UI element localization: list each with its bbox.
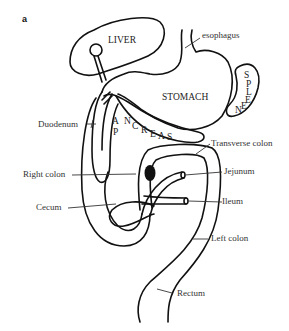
liver-outline: [70, 18, 164, 75]
transverse-colon-label: Transverse colon: [211, 138, 273, 148]
jejunum-label: Jejunum: [224, 166, 255, 176]
esophagus-label: esophagus: [202, 30, 240, 40]
svg-text:P: P: [113, 127, 118, 137]
stomach-label: STOMACH: [162, 92, 208, 102]
svg-text:C: C: [132, 121, 138, 131]
svg-text:S: S: [167, 132, 172, 142]
panel-letter: a: [22, 14, 28, 24]
jejunum-end: [181, 172, 185, 178]
ileum-label: Ileum: [222, 196, 243, 206]
rectum-label: Rectum: [177, 288, 205, 298]
svg-text:N: N: [124, 116, 131, 126]
ileum-leader: [188, 201, 222, 202]
cecum-label: Cecum: [36, 202, 62, 212]
liver-label: LIVER: [108, 35, 137, 45]
spleen-label: S P L E E N: [235, 70, 252, 115]
rectum-leader: [157, 289, 172, 293]
svg-text:E: E: [150, 129, 156, 139]
svg-text:E: E: [241, 101, 247, 111]
right-colon-label: Right colon: [23, 169, 66, 179]
svg-text:A: A: [158, 131, 165, 141]
dark-mass: [145, 165, 156, 181]
bile-duct-left: [94, 56, 102, 82]
cecum-outline: [110, 202, 154, 226]
gallbladder: [90, 44, 102, 56]
duodenum-label: Duodenum: [38, 119, 78, 129]
bile-duct-right: [98, 56, 106, 80]
digestive-tract-diagram: a LIVER esophagus STOMACH S P L E E N Du…: [0, 0, 289, 331]
svg-text:N: N: [235, 105, 242, 115]
ileum-end: [184, 198, 188, 204]
left-colon-label: Left colon: [211, 233, 249, 243]
pancreas-label: A P N C R E A S: [112, 116, 172, 142]
jejunum-leader: [185, 172, 222, 175]
svg-text:R: R: [141, 125, 148, 135]
cecum-leader: [68, 204, 116, 208]
svg-text:A: A: [112, 116, 119, 126]
duodenum-outer-wall: [92, 92, 118, 182]
